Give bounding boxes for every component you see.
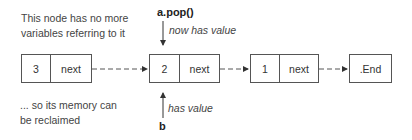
arrows-layer xyxy=(0,0,412,140)
